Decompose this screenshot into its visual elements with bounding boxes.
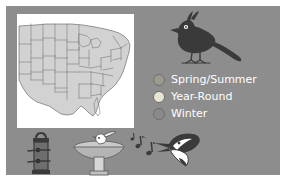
legend-item-year-round[interactable]: Year-Round — [153, 89, 283, 105]
legend-item-label: Year-Round — [171, 91, 232, 103]
circle-swatch-icon — [153, 74, 165, 86]
range-legend: Spring/Summer Year-Round Winter — [153, 72, 283, 123]
crested-bird-silhouette — [164, 10, 250, 68]
map-panel — [17, 14, 134, 128]
circle-swatch-icon — [153, 91, 165, 103]
legend-item-label: Spring/Summer — [171, 74, 257, 86]
legend-item-winter[interactable]: Winter — [153, 106, 283, 122]
legend-item-spring-summer[interactable]: Spring/Summer — [153, 72, 283, 88]
bird-song-icon — [129, 130, 201, 172]
bird-feeder-icon — [24, 130, 58, 178]
circle-swatch-icon — [153, 108, 165, 120]
content-panel: Spring/Summer Year-Round Winter — [6, 6, 280, 175]
legend-item-label: Winter — [171, 108, 207, 120]
infographic-root: Spring/Summer Year-Round Winter — [0, 0, 286, 181]
bird-activity-icon-row — [17, 130, 197, 178]
birdbath-icon — [72, 130, 126, 176]
united-states-map — [17, 14, 134, 128]
